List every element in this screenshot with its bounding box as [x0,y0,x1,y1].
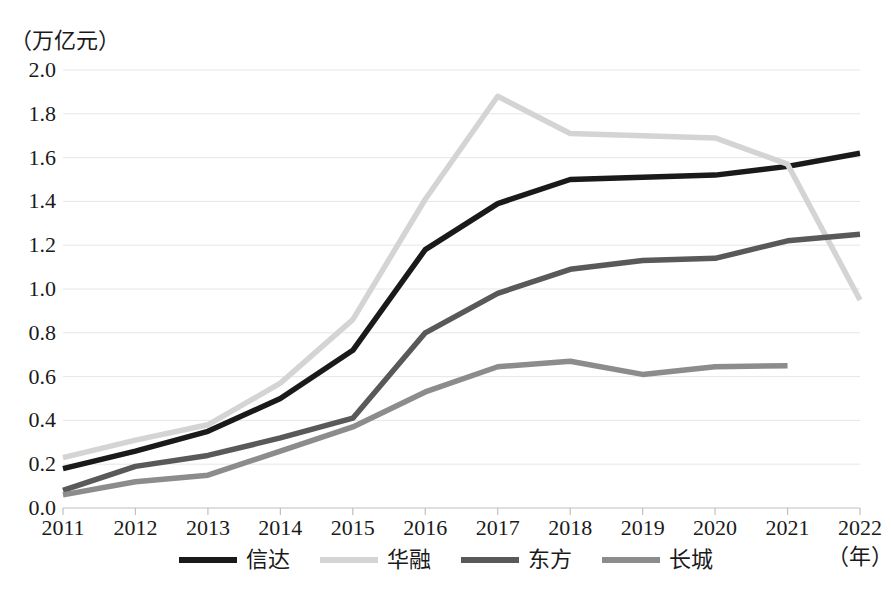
x-axis-labels: 2011201220132014201520162017201820192020… [0,0,891,614]
x-axis-tick-label: 2014 [240,516,320,540]
x-axis-tick-label: 2011 [23,516,103,540]
legend-label: 华融 [387,548,431,572]
x-axis-tick-label: 2019 [603,516,683,540]
x-axis-tick-label: 2018 [530,516,610,540]
legend-item[interactable]: 长城 [602,548,713,572]
legend-swatch-icon [179,557,237,563]
legend-item[interactable]: 华融 [320,548,431,572]
legend-item[interactable]: 东方 [461,548,572,572]
legend-swatch-icon [320,557,378,563]
legend-label: 东方 [528,548,572,572]
x-axis-tick-label: 2017 [458,516,538,540]
x-axis-tick-label: 2021 [748,516,828,540]
legend-swatch-icon [602,557,660,563]
x-axis-tick-label: 2012 [95,516,175,540]
legend-label: 长城 [669,548,713,572]
legend-swatch-icon [461,557,519,563]
x-axis-tick-label: 2013 [168,516,248,540]
x-axis-tick-label: 2016 [385,516,465,540]
x-axis-tick-label: 2020 [675,516,755,540]
line-chart: （万亿元） 2.01.81.61.41.21.00.80.60.40.20.0 … [0,0,891,614]
chart-legend: 信达华融东方长城 [0,548,891,572]
x-axis-tick-label: 2015 [313,516,393,540]
x-axis-tick-label: 2022 [820,516,891,540]
legend-label: 信达 [246,548,290,572]
legend-item[interactable]: 信达 [179,548,290,572]
